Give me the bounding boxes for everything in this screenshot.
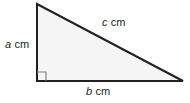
label-side-a-unit: cm (14, 38, 29, 50)
label-side-b-unit: cm (95, 85, 110, 97)
label-side-c: c cm (102, 16, 126, 28)
label-side-a: a cm (5, 38, 29, 50)
right-triangle-figure: a cm c cm b cm (0, 0, 190, 103)
label-side-c-unit: cm (111, 16, 126, 28)
label-side-b: b cm (86, 85, 110, 97)
